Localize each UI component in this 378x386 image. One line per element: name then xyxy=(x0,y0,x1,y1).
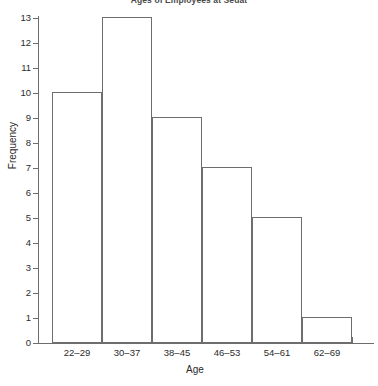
chart-title: Ages of Employees at Sedat xyxy=(0,0,378,5)
x-tick-label: 62–69 xyxy=(297,347,357,358)
y-tick-mark xyxy=(33,68,39,69)
histogram-bar xyxy=(52,92,102,343)
y-axis-line xyxy=(38,16,39,344)
x-axis-line xyxy=(38,343,374,344)
histogram-figure: Ages of Employees at Sedat 0123456789101… xyxy=(0,0,378,386)
x-axis-title: Age xyxy=(38,364,352,375)
histogram-bar xyxy=(102,17,152,343)
y-tick-label: 10 xyxy=(1,87,31,98)
y-tick-mark xyxy=(33,268,39,269)
y-tick-label: 13 xyxy=(1,12,31,23)
bars-container xyxy=(52,18,352,343)
y-tick-mark xyxy=(33,118,39,119)
y-tick-label: 12 xyxy=(1,37,31,48)
y-axis-title: Frequency xyxy=(7,101,18,191)
y-tick-label: 5 xyxy=(1,212,31,223)
y-tick-mark xyxy=(33,343,39,344)
y-tick-label: 1 xyxy=(1,312,31,323)
y-tick-label: 0 xyxy=(1,337,31,348)
y-tick-label: 11 xyxy=(1,62,31,73)
y-tick-mark xyxy=(33,168,39,169)
histogram-bar xyxy=(302,317,352,343)
histogram-bar xyxy=(252,217,302,343)
histogram-bar xyxy=(202,167,252,343)
histogram-bar xyxy=(152,117,202,343)
y-tick-mark xyxy=(33,93,39,94)
y-tick-label: 3 xyxy=(1,262,31,273)
y-tick-mark xyxy=(33,318,39,319)
y-tick-mark xyxy=(33,18,39,19)
x-tick-mark xyxy=(352,337,353,344)
y-tick-mark xyxy=(33,293,39,294)
y-tick-label: 2 xyxy=(1,287,31,298)
y-tick-mark xyxy=(33,43,39,44)
y-tick-mark xyxy=(33,193,39,194)
y-tick-label: 4 xyxy=(1,237,31,248)
y-tick-mark xyxy=(33,218,39,219)
y-tick-mark xyxy=(33,143,39,144)
y-tick-mark xyxy=(33,243,39,244)
